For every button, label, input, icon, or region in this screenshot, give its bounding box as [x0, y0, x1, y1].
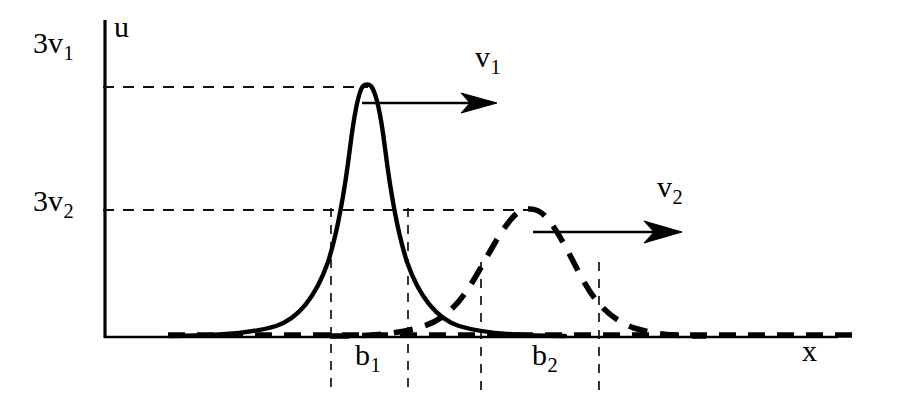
velocity-arrow-v2 [533, 221, 682, 243]
soliton-figure: u x 3v1 3v2 b1 b2 v1 v2 [0, 0, 898, 412]
tick-3v1-subscript: 1 [63, 42, 74, 64]
y-axis-label: u [114, 12, 129, 42]
v1-subscript: 1 [490, 56, 501, 78]
velocity-label-v2: v2 [657, 172, 683, 207]
velocity-label-v1: v1 [475, 42, 501, 77]
axes-group [104, 20, 838, 338]
tick-3v2-base: 3v [33, 184, 63, 217]
v1-base: v [475, 40, 490, 73]
v2-subscript: 2 [672, 186, 683, 208]
width-label-b1: b1 [355, 340, 381, 375]
tick-3v2-subscript: 2 [63, 200, 74, 222]
b2-base: b [532, 338, 547, 371]
width-label-b2: b2 [532, 340, 558, 375]
tick-3v1-base: 3v [33, 26, 63, 59]
b2-subscript: 2 [547, 354, 558, 376]
soliton-2-curve [330, 209, 706, 336]
b1-subscript: 1 [370, 354, 381, 376]
x-axis-label: x [802, 336, 817, 366]
y-tick-label-3v1: 3v1 [33, 28, 74, 63]
y-tick-label-3v2: 3v2 [33, 186, 74, 221]
v2-base: v [657, 170, 672, 203]
b1-base: b [355, 338, 370, 371]
velocity-arrow-v1 [362, 93, 497, 113]
figure-canvas [0, 0, 898, 412]
